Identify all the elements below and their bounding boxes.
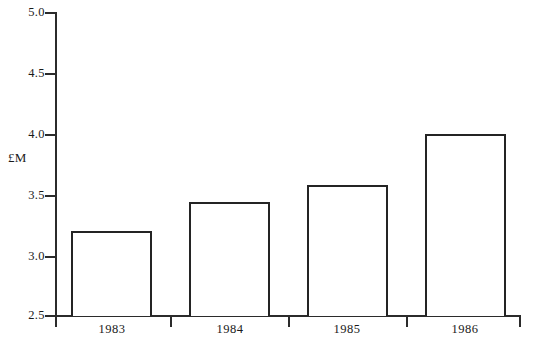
x-axis-tick-label: 1985 (287, 322, 407, 336)
x-axis-tick-label: 1983 (52, 322, 172, 336)
y-axis-tick-label: 3.5 (5, 189, 45, 201)
y-axis-label-wrap: 5.0 (0, 6, 45, 18)
y-axis-tick (45, 12, 56, 14)
y-axis-line (55, 12, 57, 317)
y-axis-label-wrap: 4.0 (0, 128, 45, 140)
y-axis-tick (45, 195, 56, 197)
y-axis-title: £M (8, 151, 27, 165)
y-axis-tick (45, 73, 56, 75)
bar-chart: 5.0 4.5 4.0 3.5 3.0 2.5 £M 1983 1984 198… (0, 0, 537, 352)
bar-1986 (425, 134, 506, 316)
y-axis-tick-label: 2.5 (5, 309, 45, 321)
y-axis-tick-label: 4.0 (5, 128, 45, 140)
y-axis-tick (45, 256, 56, 258)
bar-1984 (189, 202, 270, 316)
bar-1983 (71, 231, 152, 316)
bar-1985 (307, 185, 388, 316)
y-axis-label-wrap: 3.5 (0, 189, 45, 201)
x-axis-tick-label: 1984 (170, 322, 290, 336)
y-axis-tick (45, 134, 56, 136)
y-axis-tick-label: 3.0 (5, 250, 45, 262)
y-axis-tick-label: 5.0 (5, 6, 45, 18)
x-axis-tick-label: 1986 (405, 322, 525, 336)
y-axis-label-wrap: 3.0 (0, 250, 45, 262)
y-axis-tick-label: 4.5 (5, 67, 45, 79)
y-axis-label-wrap: 2.5 (0, 309, 45, 321)
y-axis-label-wrap: 4.5 (0, 67, 45, 79)
